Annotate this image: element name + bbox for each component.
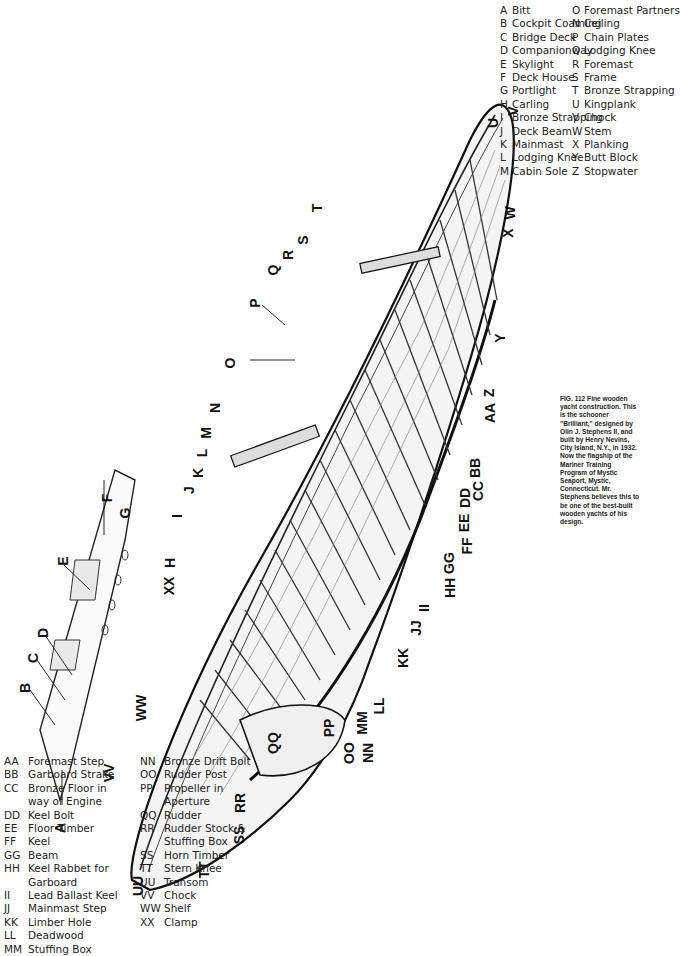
callout-label: Z bbox=[481, 389, 497, 398]
legend-entry: NNBronze Drift Bolt bbox=[140, 755, 251, 768]
legend-entry: OForemast Partners bbox=[572, 4, 680, 17]
legend-code: E bbox=[500, 58, 512, 71]
legend-label: Deck House bbox=[512, 71, 575, 84]
callout-label: L bbox=[194, 449, 210, 458]
legend-entry: XPlanking bbox=[572, 138, 680, 151]
legend-label: Shelf bbox=[164, 902, 190, 915]
legend-label: Foremast bbox=[584, 58, 633, 71]
legend-label: Foremast Step bbox=[28, 755, 104, 768]
legend-code: R bbox=[572, 58, 584, 71]
legend-label: Keel Rabbet for bbox=[28, 862, 109, 875]
legend-entry: PPPropeller in bbox=[140, 782, 251, 795]
callout-label: Q bbox=[265, 265, 281, 276]
legend-label: Rudder Stock & bbox=[164, 822, 246, 835]
legend-code: I bbox=[500, 111, 512, 124]
legend-label: Beam bbox=[28, 849, 58, 862]
legend-code: H bbox=[500, 98, 512, 111]
legend-code: LL bbox=[4, 929, 28, 942]
legend-entry: ZStopwater bbox=[572, 165, 680, 178]
legend-code: RR bbox=[140, 822, 164, 835]
legend-label: Carling bbox=[512, 98, 549, 111]
legend-label: Portlight bbox=[512, 84, 556, 97]
legend-code: N bbox=[572, 17, 584, 30]
legend-entry: Garboard bbox=[4, 876, 118, 889]
legend-label: Deck Beam bbox=[512, 125, 572, 138]
callout-label: C bbox=[25, 653, 41, 663]
legend-entry: NCeiling bbox=[572, 17, 680, 30]
legend-entry: VVChock bbox=[140, 889, 251, 902]
callout-label: J bbox=[181, 486, 197, 494]
legend-entry: SFrame bbox=[572, 71, 680, 84]
legend-label: Garboard bbox=[28, 876, 77, 889]
callout-label: T bbox=[309, 204, 325, 213]
legend-label: Keel Bolt bbox=[28, 809, 74, 822]
legend-entry: OORudder Post bbox=[140, 768, 251, 781]
legend-entry: TTStern Knee bbox=[140, 862, 251, 875]
legend-code: PP bbox=[140, 782, 164, 795]
legend-code: M bbox=[500, 165, 512, 178]
callout-label: EE bbox=[456, 514, 472, 533]
legend-code: OO bbox=[140, 768, 164, 781]
legend-code: Q bbox=[572, 44, 584, 57]
callout-label: R bbox=[280, 250, 296, 260]
legend-code: VV bbox=[140, 889, 164, 902]
legend-code bbox=[4, 876, 28, 889]
callout-label: MM bbox=[354, 711, 370, 734]
legend-code: J bbox=[500, 125, 512, 138]
legend-code: P bbox=[572, 31, 584, 44]
legend-entry: PChain Plates bbox=[572, 31, 680, 44]
legend-code: BB bbox=[4, 768, 28, 781]
legend-nn-to-xx: NNBronze Drift BoltOORudder PostPPPropel… bbox=[140, 755, 251, 929]
legend-label: Garboard Strake bbox=[28, 768, 114, 781]
legend-label: Chain Plates bbox=[584, 31, 649, 44]
legend-label: Bitt bbox=[512, 4, 530, 17]
legend-label: Bronze Strapping bbox=[584, 84, 675, 97]
callout-label: HH bbox=[442, 578, 458, 598]
callout-label: GG bbox=[441, 552, 457, 574]
legend-code bbox=[4, 795, 28, 808]
legend-code: XX bbox=[140, 916, 164, 929]
callout-label: B bbox=[17, 683, 33, 693]
legend-code: FF bbox=[4, 835, 28, 848]
callout-label: JJ bbox=[408, 620, 424, 636]
legend-entry: CCBronze Floor in bbox=[4, 782, 118, 795]
legend-label: Keel bbox=[28, 835, 50, 848]
legend-label: Ceiling bbox=[584, 17, 620, 30]
legend-code: NN bbox=[140, 755, 164, 768]
callout-label: D bbox=[35, 628, 51, 638]
legend-entry: IILead Ballast Keel bbox=[4, 889, 118, 902]
callout-label: PP bbox=[321, 719, 337, 738]
legend-label: Chock bbox=[164, 889, 196, 902]
legend-label: Frame bbox=[584, 71, 617, 84]
callout-label: DD bbox=[457, 488, 473, 508]
legend-entry: BBGarboard Strake bbox=[4, 768, 118, 781]
legend-code: SS bbox=[140, 849, 164, 862]
legend-code: Y bbox=[572, 151, 584, 164]
legend-code: C bbox=[500, 31, 512, 44]
callout-label: AA bbox=[482, 403, 498, 423]
callout-label: Y bbox=[492, 333, 508, 342]
legend-label: Lodging Knee bbox=[584, 44, 655, 57]
legend-code: KK bbox=[4, 916, 28, 929]
legend-entry: VChock bbox=[572, 111, 680, 124]
legend-code: UU bbox=[140, 876, 164, 889]
legend-label: Floor Timber bbox=[28, 822, 94, 835]
callout-label: FF bbox=[459, 537, 475, 554]
legend-code: D bbox=[500, 44, 512, 57]
legend-entry: EEFloor Timber bbox=[4, 822, 118, 835]
legend-code: X bbox=[572, 138, 584, 151]
legend-code: F bbox=[500, 71, 512, 84]
legend-entry: Aperture bbox=[140, 795, 251, 808]
legend-code: Z bbox=[572, 165, 584, 178]
legend-entry: Stuffing Box bbox=[140, 835, 251, 848]
legend-entry: KKLimber Hole bbox=[4, 916, 118, 929]
callout-label: S bbox=[295, 235, 311, 244]
legend-entry: HHKeel Rabbet for bbox=[4, 862, 118, 875]
legend-entry: way of Engine bbox=[4, 795, 118, 808]
callout-label: M bbox=[198, 427, 214, 439]
legend-code: W bbox=[572, 125, 584, 138]
legend-aa-to-mm: AAForemast StepBBGarboard StrakeCCBronze… bbox=[4, 755, 118, 956]
callout-label: P bbox=[247, 298, 263, 307]
legend-o-to-z: OForemast PartnersNCeilingPChain PlatesQ… bbox=[572, 4, 680, 178]
legend-entry: LLDeadwood bbox=[4, 929, 118, 942]
